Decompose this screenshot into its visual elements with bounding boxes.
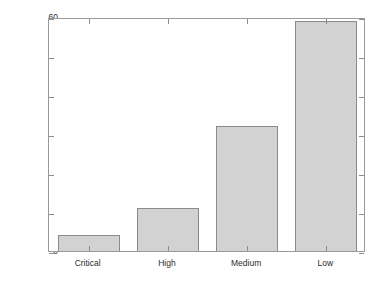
y-tick-mark-left [49,58,54,59]
x-tick-mark-top [168,19,169,24]
x-tick-mark-bottom [326,246,327,251]
y-tick-mark-right [359,214,364,215]
x-tick-label-medium: Medium [206,258,286,268]
y-tick-mark-right [359,136,364,137]
y-tick-mark-left [49,214,54,215]
bar-high [137,208,199,251]
x-tick-mark-bottom [168,246,169,251]
y-tick-mark-left [49,19,54,20]
y-tick-mark-left [49,253,54,254]
x-tick-mark-top [326,19,327,24]
bar-chart-figure: The Number of Vulnerability 0 10 20 30 4… [0,0,388,288]
bar-low [295,21,357,251]
x-tick-label-critical: Critical [48,258,128,268]
y-tick-mark-right [359,97,364,98]
y-tick-mark-right [359,253,364,254]
y-tick-mark-right [359,175,364,176]
y-tick-mark-left [49,175,54,176]
x-tick-mark-top [89,19,90,24]
x-tick-mark-top [247,19,248,24]
y-tick-mark-right [359,58,364,59]
bar-medium [216,126,278,251]
y-tick-mark-left [49,136,54,137]
y-tick-mark-right [359,19,364,20]
x-tick-label-low: Low [285,258,365,268]
x-tick-label-high: High [127,258,207,268]
x-tick-mark-bottom [89,246,90,251]
y-tick-mark-left [49,97,54,98]
x-tick-mark-bottom [247,246,248,251]
plot-area [48,18,365,252]
